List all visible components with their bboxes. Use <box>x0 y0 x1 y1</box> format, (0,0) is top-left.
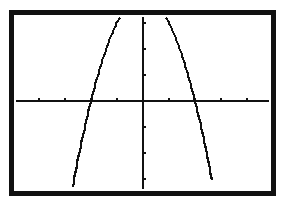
axes <box>16 17 269 189</box>
parabola-branch <box>166 18 212 180</box>
graph-plot <box>14 15 271 191</box>
calculator-screen: Graphing calculator screen showing parab… <box>9 10 276 196</box>
parabola-branch <box>73 18 120 187</box>
